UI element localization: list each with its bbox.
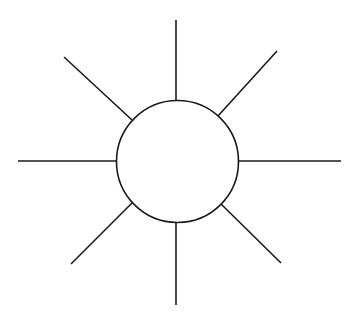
sun-diagram xyxy=(0,0,357,320)
center-circle xyxy=(117,101,239,223)
